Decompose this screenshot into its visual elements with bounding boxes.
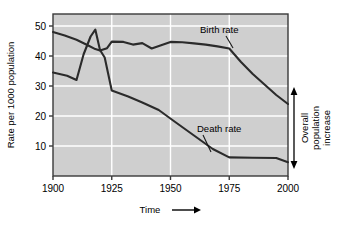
y-axis-title: Rate per 1000 population [5, 42, 16, 149]
x-tick-label: 1975 [218, 183, 241, 194]
y-tick-label: 30 [35, 81, 47, 92]
death-rate-annotation-label: Death rate [197, 123, 241, 134]
y-tick-label: 10 [35, 141, 47, 152]
x-axis-title: Time [140, 204, 161, 215]
chart-figure: 1020304050 19001925195019752000 Rate per… [0, 0, 340, 225]
x-tick-label: 1925 [101, 183, 124, 194]
birth-rate-annotation-label: Birth rate [200, 24, 239, 35]
overall-increase-line-2: population [310, 106, 321, 150]
x-tick-label: 1950 [159, 183, 182, 194]
x-tick-label: 1900 [42, 183, 65, 194]
overall-increase-line-1: Overall [299, 113, 310, 143]
overall-increase-line-3: increase [321, 110, 332, 146]
y-tick-label: 40 [35, 51, 47, 62]
population-rates-line-chart: 1020304050 19001925195019752000 Rate per… [0, 0, 340, 225]
y-tick-label: 50 [35, 21, 47, 32]
y-tick-label: 20 [35, 111, 47, 122]
x-tick-label: 2000 [277, 183, 300, 194]
